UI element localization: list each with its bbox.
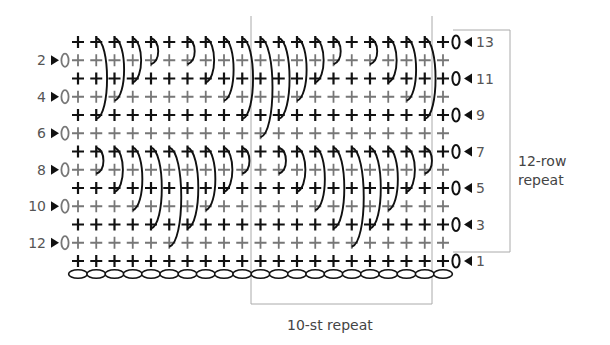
arrow-right-icon <box>51 128 59 138</box>
long-stitch-icon <box>388 148 398 211</box>
single-crochet-icon <box>255 146 267 158</box>
chain-stitch-icon <box>342 270 361 279</box>
single-crochet-icon <box>419 127 431 139</box>
row-label-left: 8 <box>0 163 46 177</box>
turning-chain-icon <box>452 181 459 194</box>
single-crochet-icon <box>236 73 248 85</box>
single-crochet-icon <box>346 73 358 85</box>
single-crochet-icon <box>364 182 376 194</box>
single-crochet-icon <box>328 127 340 139</box>
single-crochet-icon <box>163 91 175 103</box>
single-crochet-icon <box>90 91 102 103</box>
row-label-left: 10 <box>0 199 46 213</box>
single-crochet-icon <box>200 91 212 103</box>
arrow-right-icon <box>51 55 59 65</box>
single-crochet-icon <box>255 182 267 194</box>
single-crochet-icon <box>109 54 121 66</box>
single-crochet-icon <box>90 200 102 212</box>
single-crochet-icon <box>364 164 376 176</box>
single-crochet-icon <box>437 36 449 48</box>
single-crochet-icon <box>236 54 248 66</box>
single-crochet-icon <box>419 182 431 194</box>
chain-stitch-icon <box>306 270 325 279</box>
single-crochet-icon <box>291 73 303 85</box>
single-crochet-icon <box>437 109 449 121</box>
long-stitch-icon <box>261 38 273 137</box>
single-crochet-icon <box>182 200 194 212</box>
single-crochet-icon <box>109 164 121 176</box>
single-crochet-icon <box>419 255 431 267</box>
single-crochet-icon <box>127 255 139 267</box>
single-crochet-icon <box>127 182 139 194</box>
single-crochet-icon <box>109 200 121 212</box>
single-crochet-icon <box>218 109 230 121</box>
single-crochet-icon <box>127 91 139 103</box>
single-crochet-icon <box>346 91 358 103</box>
single-crochet-icon <box>401 54 413 66</box>
single-crochet-icon <box>273 91 285 103</box>
single-crochet-icon <box>72 54 84 66</box>
single-crochet-icon <box>328 91 340 103</box>
turning-chain-icon <box>61 236 68 249</box>
long-stitch-icon <box>407 38 417 101</box>
turning-chain-icon <box>452 218 459 231</box>
long-stitches <box>96 38 435 247</box>
row-label-right: 5 <box>476 181 485 195</box>
single-crochet-icon <box>72 200 84 212</box>
single-crochet-icon <box>309 54 321 66</box>
single-crochet-icon <box>291 219 303 231</box>
single-crochet-icon <box>437 127 449 139</box>
single-crochet-icon <box>346 219 358 231</box>
chain-stitch-icon <box>361 270 380 279</box>
row-repeat-label: 12-row repeat <box>518 152 566 190</box>
single-crochet-icon <box>200 109 212 121</box>
single-crochet-icon <box>127 164 139 176</box>
single-crochet-icon <box>200 164 212 176</box>
long-stitch-icon <box>315 148 325 211</box>
turning-chain-icon <box>61 200 68 213</box>
single-crochet-icon <box>163 54 175 66</box>
long-stitch-icon <box>224 38 234 101</box>
arrow-left-icon <box>464 74 472 84</box>
arrow-left-icon <box>464 110 472 120</box>
single-crochet-icon <box>273 127 285 139</box>
row-label-right: 13 <box>476 35 494 49</box>
row-label-right: 1 <box>476 254 485 268</box>
chain-stitch-icon <box>196 270 215 279</box>
single-crochet-icon <box>90 219 102 231</box>
row-repeat-label-line1: 12-row <box>518 152 566 171</box>
chain-stitch-icon <box>215 270 234 279</box>
single-crochet-icon <box>109 255 121 267</box>
single-crochet-icon <box>273 200 285 212</box>
single-crochet-icon <box>309 91 321 103</box>
single-crochet-icon <box>72 36 84 48</box>
single-crochet-icon <box>419 91 431 103</box>
single-crochet-icon <box>419 200 431 212</box>
single-crochet-icon <box>309 164 321 176</box>
single-crochet-icon <box>437 164 449 176</box>
chain-stitch-icon <box>288 270 307 279</box>
single-crochet-icon <box>346 54 358 66</box>
row-label-right: 9 <box>476 108 485 122</box>
single-crochet-icon <box>109 219 121 231</box>
single-crochet-icon <box>437 219 449 231</box>
single-crochet-icon <box>163 182 175 194</box>
single-crochet-icon <box>382 237 394 249</box>
chain-stitch-icon <box>269 270 288 279</box>
single-crochet-icon <box>145 91 157 103</box>
single-crochet-icon <box>90 182 102 194</box>
single-crochet-icon <box>328 182 340 194</box>
single-crochet-icon <box>364 109 376 121</box>
chain-stitch-icon <box>233 270 252 279</box>
single-crochet-icon <box>72 73 84 85</box>
single-crochet-icon <box>291 237 303 249</box>
chain-stitch-icon <box>324 270 343 279</box>
turning-chain-icon <box>61 90 68 103</box>
single-crochet-icon <box>72 164 84 176</box>
single-crochet-icon <box>72 146 84 158</box>
long-stitch-icon <box>297 38 307 101</box>
single-crochet-icon <box>236 127 248 139</box>
single-crochet-icon <box>255 164 267 176</box>
single-crochet-icon <box>163 73 175 85</box>
single-crochet-icon <box>218 73 230 85</box>
